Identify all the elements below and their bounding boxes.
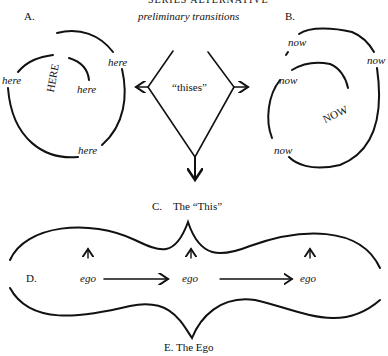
ring-word-now-3: now [279,74,297,86]
panel-a-label: A. [24,10,35,22]
ring-word-now-4: now [274,144,292,156]
spiral-b-outer-top [299,29,374,53]
ego-node-1: ego [80,272,96,284]
diamond-lines [148,51,234,157]
spiral-a-inner-end [69,58,89,80]
panel-b-label: B. [285,10,295,22]
diagram-drawing [0,0,388,356]
spiral-b-left [268,80,280,138]
ring-word-now-1: now [288,36,306,48]
ring-word-here-1: here [108,56,127,68]
spiral-b-inner [292,63,348,88]
ring-word-here-2: here [2,74,21,86]
spiral-b-tick [286,52,288,55]
thises-label: “thises” [172,81,207,93]
ego-blob-top [10,222,380,268]
ring-word-here-4: here [78,144,97,156]
ego-node-2: ego [182,272,198,284]
ring-word-now-2: now [367,54,385,66]
spiral-a-outer-bottom [8,88,78,157]
spiral-a-outer-top [57,31,113,52]
panel-d-label: D. [26,272,37,284]
caption-the-ego: E. The Ego [164,341,214,353]
subtitle: preliminary transitions [138,10,239,22]
ring-word-here-3: here [77,83,96,95]
ego-node-3: ego [300,272,316,284]
ego-blob-bottom [10,288,380,338]
caption-the-this: C. The “This” [152,200,222,212]
spiral-a-outer-right [102,69,125,145]
